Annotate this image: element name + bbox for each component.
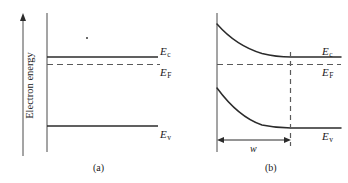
panel-b-caption: (b) <box>265 163 277 173</box>
panel-b-ec-subscript: c <box>329 50 333 59</box>
figure-drawing <box>0 0 348 183</box>
panel-b-ev-subscript: v <box>329 135 333 144</box>
panel-a-label-fermi-level: EF <box>160 67 171 80</box>
panel-a-label-conduction-band: Ec <box>160 46 170 59</box>
panel-a-ef-subscript: F <box>167 71 172 80</box>
panel-a-ec-subscript: c <box>167 50 171 59</box>
panel-b-ev-symbol: E <box>322 130 329 142</box>
panel-a-caption: (a) <box>93 163 104 173</box>
panel-a-ev-subscript: v <box>167 133 171 142</box>
figure-root: Electron energy Ec EF Ev Ec EF Ev w (a) … <box>0 0 348 183</box>
panel-a-ec-symbol: E <box>160 45 167 57</box>
panel-a-label-valence-band: Ev <box>160 129 171 142</box>
panel-b-ec-symbol: E <box>322 45 329 57</box>
panel-b-ef-symbol: E <box>322 66 329 78</box>
scan-speck-artifact <box>86 37 88 39</box>
panel-b-width-label: w <box>250 144 257 154</box>
axis-title-electron-energy: Electron energy <box>24 26 35 146</box>
panel-b-label-valence-band: Ev <box>322 131 333 144</box>
panel-b-label-fermi-level: EF <box>322 67 333 80</box>
panel-b-ef-subscript: F <box>329 71 334 80</box>
panel-a-drawing <box>47 13 160 152</box>
panel-a-ev-symbol: E <box>160 128 167 140</box>
panel-a-ef-symbol: E <box>160 66 167 78</box>
panel-b-valence-band <box>217 88 341 128</box>
panel-b-label-conduction-band: Ec <box>322 46 332 59</box>
